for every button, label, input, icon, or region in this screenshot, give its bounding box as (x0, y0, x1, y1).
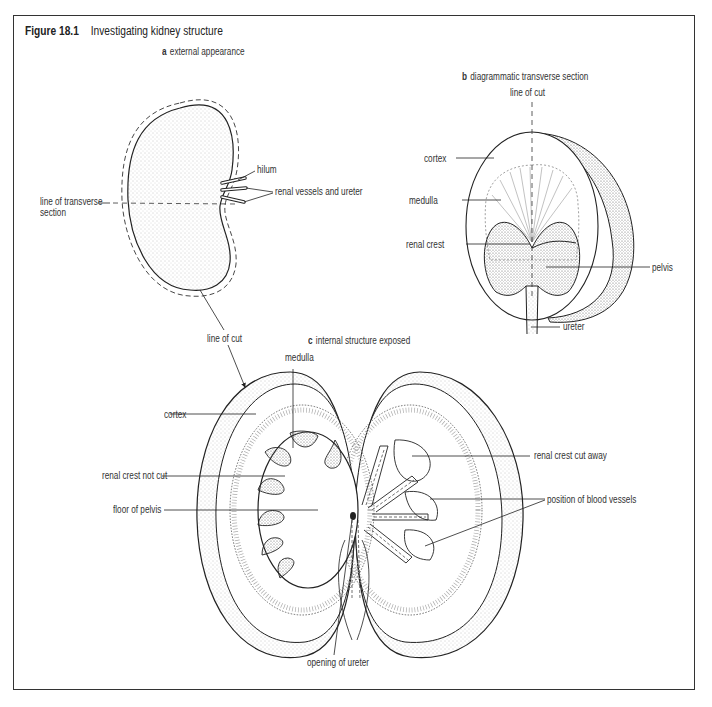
panel-c-internal (162, 369, 545, 658)
label-line-of-cut-b: line of cut (510, 87, 545, 99)
label-hilum: hilum (257, 164, 277, 176)
panel-a-caption: aexternal appearance (162, 46, 245, 58)
label-floor-of-pelvis: floor of pelvis (113, 504, 161, 516)
kidney-diagram (0, 0, 712, 707)
label-renal-crest-not-cut: renal crest not cut (102, 470, 167, 482)
panel-a-kidney (98, 100, 273, 387)
label-cortex-c: cortex (164, 409, 186, 421)
label-renal-crest-b: renal crest (406, 239, 444, 251)
label-opening-of-ureter: opening of ureter (307, 657, 369, 669)
label-line-of-cut-a: line of cut (207, 333, 242, 345)
label-line-transverse-1: line of transverse (40, 196, 102, 208)
label-line-transverse-2: section (40, 207, 66, 219)
panel-b-section (456, 102, 650, 334)
label-cortex-b: cortex (424, 153, 446, 165)
label-blood-vessels: position of blood vessels (547, 494, 636, 506)
label-medulla-b: medulla (409, 195, 438, 207)
label-pelvis-b: pelvis (652, 262, 673, 274)
label-ureter-b: ureter (563, 321, 584, 333)
label-renal-vessels: renal vessels and ureter (275, 186, 363, 198)
label-medulla-c: medulla (285, 352, 314, 364)
panel-c-caption: cinternal structure exposed (308, 335, 410, 347)
label-renal-crest-cut-away: renal crest cut away (534, 450, 607, 462)
panel-b-caption: bdiagrammatic transverse section (462, 71, 588, 83)
